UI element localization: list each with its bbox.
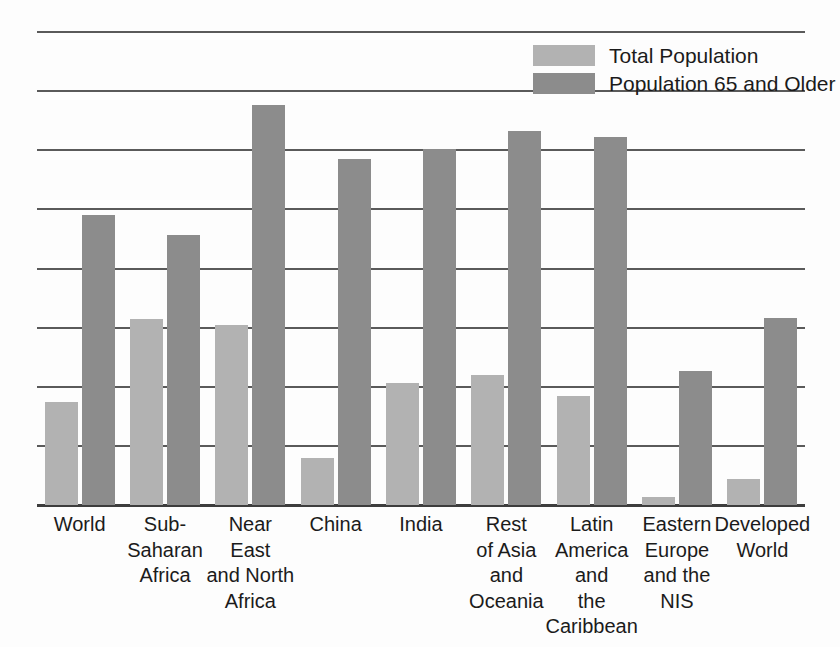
bar (130, 319, 163, 505)
bar-chart: 00.51.01.52.02.53.03.54.0 Total Populati… (0, 0, 840, 647)
bar (215, 325, 248, 505)
bar-group (471, 32, 541, 505)
bar (508, 131, 541, 505)
bar (642, 497, 675, 505)
legend-item-total-population: Total Population (533, 44, 836, 66)
legend-item-population-65-and-older: Population 65 and Older (533, 72, 836, 94)
bar-group (45, 32, 115, 505)
bar-group (130, 32, 200, 505)
bar (338, 159, 371, 505)
plot-area: 00.51.01.52.02.53.03.54.0 (37, 32, 805, 505)
x-axis-category-labels: WorldSub- Saharan AfricaNear East and No… (37, 512, 805, 647)
bar (764, 318, 797, 505)
bar (386, 383, 419, 505)
legend-swatch-icon-total-population (533, 45, 595, 66)
bar (557, 396, 590, 505)
legend-label-total-population: Total Population (609, 45, 758, 66)
bar (301, 458, 334, 505)
bar (594, 137, 627, 505)
bar-group (642, 32, 712, 505)
bar (679, 371, 712, 505)
bar (45, 402, 78, 505)
bar (252, 105, 285, 505)
bar-group (215, 32, 285, 505)
bar (471, 375, 504, 505)
legend: Total Population Population 65 and Older (533, 44, 836, 94)
bar-group (301, 32, 371, 505)
bar-group (386, 32, 456, 505)
bars-layer (37, 32, 805, 505)
bar (423, 149, 456, 505)
x-axis-category-label: Developed World (708, 512, 817, 563)
bar (82, 215, 115, 505)
legend-swatch-icon-population-65-and-older (533, 73, 595, 94)
bar (167, 235, 200, 505)
bar (727, 479, 760, 505)
bar-group (557, 32, 627, 505)
bar-group (727, 32, 797, 505)
legend-label-population-65-and-older: Population 65 and Older (609, 73, 836, 94)
